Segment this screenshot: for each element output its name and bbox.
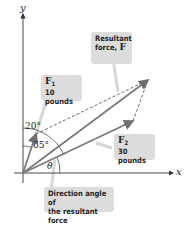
direction-line2: the resultant force	[48, 207, 110, 225]
f1-magnitude: 10 pounds	[45, 88, 78, 106]
f2-magnitude: 30 pounds	[118, 147, 151, 165]
arc-theta	[57, 157, 60, 173]
resultant-symbol: F	[119, 42, 125, 52]
f2-subscript: 2	[124, 139, 128, 146]
direction-angle-callout: Direction angle of the resultant force	[44, 187, 114, 212]
f2-callout: F2 30 pounds	[114, 134, 155, 160]
y-axis-label: y	[20, 2, 26, 13]
direction-line1: Direction angle of	[48, 189, 110, 207]
f2-leader	[96, 143, 112, 148]
x-axis-label: x	[176, 166, 182, 177]
resultant-callout: Resultant force, F	[91, 32, 132, 64]
f1-subscript: 1	[51, 80, 55, 87]
angle-65-label: 65°	[33, 140, 49, 150]
angle-theta-label: θ	[47, 161, 52, 171]
resultant-line2: force,	[95, 43, 119, 52]
angle-20-label: 20°	[25, 121, 41, 131]
f1-callout: F1 10 pounds	[41, 75, 82, 101]
